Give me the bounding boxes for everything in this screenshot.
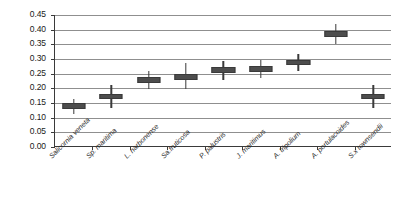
data-marker [280, 15, 317, 147]
value-box [212, 67, 235, 73]
chart-container: 0.000.050.100.150.200.250.300.350.400.45… [0, 0, 418, 219]
value-box [249, 66, 272, 72]
y-axis-tick-label: 0.35 [2, 39, 46, 48]
y-axis-tick-label: 0.15 [2, 98, 46, 107]
y-axis-tick-label: 0.40 [2, 25, 46, 34]
y-axis-tick-label: 0.30 [2, 54, 46, 63]
y-axis-tick-label: 0.20 [2, 83, 46, 92]
x-axis-labels: Salicornia venetaSp. maritimaL. narbonen… [0, 150, 418, 219]
data-marker [205, 15, 242, 147]
y-axis-tick-label: 0.05 [2, 127, 46, 136]
value-box [324, 31, 347, 37]
y-axis-tick-label: 0.25 [2, 69, 46, 78]
data-marker [167, 15, 204, 147]
value-box [137, 77, 160, 83]
value-box [62, 103, 85, 109]
y-axis-tick-label: 0.45 [2, 10, 46, 19]
value-box [287, 60, 310, 66]
y-axis-tick-label: 0.10 [2, 113, 46, 122]
value-box [100, 94, 123, 100]
value-box [174, 74, 197, 80]
value-box [362, 94, 385, 100]
